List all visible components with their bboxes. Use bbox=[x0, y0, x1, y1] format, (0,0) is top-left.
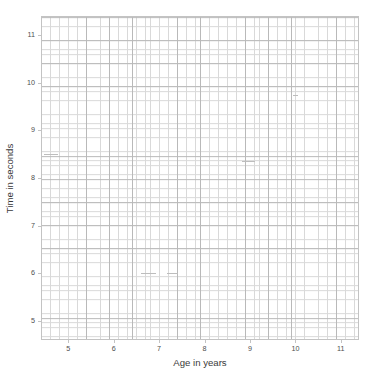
y-tickmark bbox=[38, 35, 41, 36]
y-tick-label: 6 bbox=[31, 270, 35, 277]
x-tick-label: 10 bbox=[291, 345, 299, 352]
y-tick-label: 5 bbox=[31, 317, 35, 324]
scatter-plot-figure: 567891011 111098765 Age in years Time in… bbox=[0, 0, 380, 377]
x-tickmark bbox=[114, 340, 115, 343]
y-axis-title: Time in seconds bbox=[3, 16, 17, 340]
y-tickmark bbox=[38, 226, 41, 227]
y-tick-label: 10 bbox=[27, 79, 35, 86]
faint-mark-a bbox=[44, 154, 58, 155]
y-tickmark bbox=[38, 83, 41, 84]
faint-mark-e bbox=[293, 95, 298, 96]
x-tick-label: 5 bbox=[66, 345, 70, 352]
x-tickmark bbox=[295, 340, 296, 343]
plot-area[interactable] bbox=[41, 16, 359, 340]
faint-mark-d bbox=[242, 161, 256, 162]
x-tickmark bbox=[159, 340, 160, 343]
y-tick-label: 8 bbox=[31, 174, 35, 181]
faint-mark-c bbox=[167, 273, 178, 274]
x-axis-title: Age in years bbox=[41, 357, 359, 368]
grid-major-lines bbox=[41, 16, 359, 340]
y-tickmark bbox=[38, 273, 41, 274]
x-tickmark bbox=[68, 340, 69, 343]
x-tick-label: 7 bbox=[157, 345, 161, 352]
x-tick-label: 8 bbox=[203, 345, 207, 352]
faint-mark-b bbox=[141, 273, 156, 274]
y-axis-title-text: Time in seconds bbox=[5, 143, 16, 213]
x-tick-label: 6 bbox=[112, 345, 116, 352]
y-tick-label: 11 bbox=[28, 31, 35, 38]
y-tick-label: 9 bbox=[31, 127, 35, 134]
y-tick-label: 7 bbox=[31, 222, 35, 229]
x-tickmark bbox=[205, 340, 206, 343]
y-tickmark bbox=[38, 178, 41, 179]
x-tickmark bbox=[250, 340, 251, 343]
x-tick-label: 11 bbox=[337, 345, 344, 352]
y-tickmark bbox=[38, 130, 41, 131]
x-tick-label: 9 bbox=[248, 345, 252, 352]
y-tickmark bbox=[38, 321, 41, 322]
x-tickmark bbox=[341, 340, 342, 343]
